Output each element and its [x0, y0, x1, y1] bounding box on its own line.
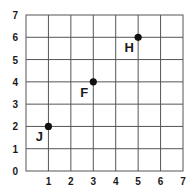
point-label-f: F: [80, 85, 88, 100]
point-label-h: H: [124, 40, 133, 55]
x-tick-label: 2: [68, 176, 74, 187]
coordinate-grid-chart: 01234567 1234567 JFH: [0, 0, 194, 192]
data-point-j: [45, 123, 52, 130]
x-tick-label: 5: [135, 176, 141, 187]
data-point-f: [90, 78, 97, 85]
point-label-j: J: [36, 129, 43, 144]
grid: [26, 15, 183, 171]
y-tick-label: 5: [12, 55, 18, 66]
x-tick-label: 6: [158, 176, 164, 187]
x-tick-label: 4: [113, 176, 119, 187]
y-tick-label: 0: [12, 166, 18, 177]
data-point-h: [135, 34, 142, 41]
x-tick-label: 7: [180, 176, 186, 187]
data-points: JFH: [36, 34, 142, 145]
y-tick-label: 7: [12, 10, 18, 21]
y-tick-label: 3: [12, 99, 18, 110]
y-tick-label: 4: [12, 77, 18, 88]
x-tick-label: 3: [91, 176, 97, 187]
plot-frame: [26, 15, 183, 171]
x-tick-label: 1: [46, 176, 52, 187]
y-axis-ticks: 01234567: [12, 10, 18, 177]
x-axis-ticks: 1234567: [46, 176, 187, 187]
y-tick-label: 1: [12, 144, 18, 155]
y-tick-label: 2: [12, 121, 18, 132]
y-tick-label: 6: [12, 32, 18, 43]
